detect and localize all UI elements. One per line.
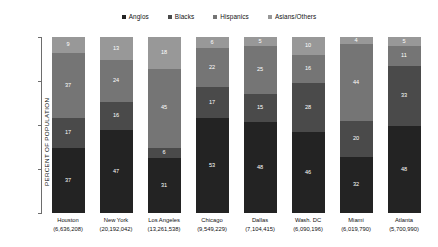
bar-segment-value: 11 [401,53,407,59]
x-axis-category: Dallas(7,104,415) [236,216,284,234]
bar-segment[interactable]: 13 [100,37,133,60]
legend-swatch-icon [168,15,172,19]
legend-item-label: Blacks [175,13,194,20]
bar-segment[interactable]: 20 [340,121,373,156]
bar-segment[interactable]: 48 [388,126,421,213]
bar-segment[interactable]: 6 [196,37,229,48]
bar-segment-value: 28 [305,105,311,111]
bar-segment-value: 32 [353,182,359,188]
bar-segment[interactable]: 31 [148,158,181,213]
bar-segment[interactable]: 48 [244,122,277,213]
bar-segment-value: 17 [209,100,215,106]
y-axis-tick-mark [38,37,42,38]
bar-segment[interactable]: 46 [292,132,325,213]
bar-segment[interactable]: 45 [148,69,181,148]
bar-segment[interactable]: 44 [340,44,373,121]
bar-segment-value: 9 [66,42,69,48]
bar-segment-value: 45 [161,105,167,111]
bar-segment[interactable]: 5 [244,37,277,46]
category-name: Atlanta [395,217,413,223]
stacked-bar[interactable]: 13241647 [100,37,133,213]
legend-swatch-icon [122,15,126,19]
bar-segment[interactable]: 47 [100,130,133,213]
bar-segment[interactable]: 37 [52,53,85,118]
chart-legend: AnglosBlacksHispanicsAsians/Others [0,13,438,20]
category-population: (6,019,790) [332,225,380,234]
bar-segment-value: 4 [354,38,357,44]
bar-segment-value: 10 [305,43,311,49]
bar-segment[interactable]: 24 [100,60,133,102]
bar-segment[interactable]: 25 [244,46,277,93]
bar-segment[interactable]: 32 [340,157,373,213]
bar-segment-value: 5 [258,39,261,45]
bar-group: 5113348 [380,37,428,213]
x-axis-category-labels: Houston(6,636,208)New York(20,192,042)Lo… [44,216,428,234]
bar-segment-value: 5 [402,39,405,45]
stacked-bar[interactable]: 5251548 [244,37,277,213]
bar-segment-value: 17 [65,130,71,136]
bar-segment-value: 37 [65,178,71,184]
y-axis-tick-mark [38,81,42,82]
bar-segment-value: 22 [209,65,215,71]
bar-segment-value: 16 [113,113,119,119]
bar-segment[interactable]: 18 [148,37,181,69]
bar-segment-value: 25 [257,67,263,73]
bar-segment[interactable]: 17 [52,118,85,148]
legend-swatch-icon [213,15,217,19]
plot-area: PERCENT OF POPULATION 0255075100 9371737… [44,37,428,213]
bar-segment[interactable]: 22 [196,48,229,88]
category-name: Chicago [201,217,222,223]
category-population: (6,090,196) [284,225,332,234]
bar-segment-value: 6 [210,40,213,46]
bar-segment-value: 53 [209,163,215,169]
bar-segment[interactable]: 10 [292,37,325,55]
legend-item-label: Hispanics [220,13,249,20]
category-population: (9,549,229) [188,225,236,234]
y-axis-tick-mark [38,169,42,170]
legend-item: Blacks [168,13,194,20]
bar-segment[interactable]: 53 [196,118,229,213]
bar-segment[interactable]: 28 [292,83,325,132]
stacked-bar[interactable]: 10162846 [292,37,325,213]
bar-segment[interactable]: 16 [100,102,133,130]
bar-segment[interactable]: 37 [52,148,85,213]
bar-segment[interactable]: 17 [196,87,229,118]
bar-segment[interactable]: 16 [292,55,325,83]
bar-group: 9371737 [44,37,92,213]
y-axis-tick-mark [38,125,42,126]
bar-segment[interactable]: 11 [388,46,421,66]
bar-segment-value: 31 [161,183,167,189]
bar-series-container: 9371737132416471845631622175352515481016… [44,37,428,213]
stacked-bar[interactable]: 6221753 [196,37,229,213]
bar-group: 4442032 [332,37,380,213]
category-name: Los Angeles [148,217,180,223]
x-axis-category: Los Angeles(13,261,538) [140,216,188,234]
category-population: (5,700,990) [380,225,428,234]
bar-segment-value: 24 [113,78,119,84]
x-axis-category: Miami(6,019,790) [332,216,380,234]
bar-segment-value: 48 [401,167,407,173]
category-name: Houston [57,217,79,223]
bar-segment[interactable]: 4 [340,37,373,44]
stacked-bar[interactable]: 5113348 [388,37,421,213]
bar-segment[interactable]: 15 [244,94,277,122]
bar-group: 5251548 [236,37,284,213]
stacked-bar[interactable]: 9371737 [52,37,85,213]
bar-segment-value: 44 [353,80,359,86]
category-name: New York [104,217,129,223]
legend-item-label: Anglos [129,13,149,20]
stacked-bar[interactable]: 1845631 [148,37,181,213]
bar-segment[interactable]: 6 [148,148,181,159]
legend-item-label: Asians/Others [275,13,316,20]
bar-group: 10162846 [284,37,332,213]
x-axis-category: New York(20,192,042) [92,216,140,234]
bar-segment-value: 47 [113,169,119,175]
legend-swatch-icon [268,15,272,19]
category-name: Wash. DC [295,217,321,223]
bar-segment[interactable]: 5 [388,37,421,46]
category-name: Miami [348,217,363,223]
bar-segment-value: 20 [353,136,359,142]
bar-segment[interactable]: 33 [388,66,421,126]
stacked-bar[interactable]: 4442032 [340,37,373,213]
bar-segment[interactable]: 9 [52,37,85,53]
